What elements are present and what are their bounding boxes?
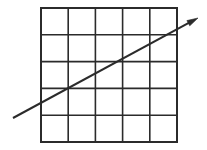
grid-cell-r3c5: [150, 62, 177, 89]
grid-group: [41, 8, 177, 142]
grid-arrow-figure: [0, 0, 207, 150]
grid-cell-r1c1: [41, 8, 68, 35]
figure-canvas: [0, 0, 207, 150]
grid-cell-r4c2: [68, 88, 95, 115]
grid-cell-r5c1: [41, 115, 68, 142]
grid-cell-r3c1: [41, 62, 68, 89]
grid-cell-r4c1: [41, 88, 68, 115]
grid-cell-r4c3: [95, 88, 122, 115]
grid-cell-r4c4: [123, 88, 150, 115]
grid-cell-r5c5: [150, 115, 177, 142]
grid-cell-r3c4: [123, 62, 150, 89]
grid-cell-r2c2: [68, 35, 95, 62]
grid-cell-r1c3: [95, 8, 122, 35]
grid-cell-r5c2: [68, 115, 95, 142]
grid-cell-r2c3: [95, 35, 122, 62]
grid-cell-r2c1: [41, 35, 68, 62]
grid-cell-r4c5: [150, 88, 177, 115]
grid-cell-r5c3: [95, 115, 122, 142]
grid-cell-r1c2: [68, 8, 95, 35]
grid-cell-r2c5: [150, 35, 177, 62]
grid-cell-r1c4: [123, 8, 150, 35]
grid-cell-r5c4: [123, 115, 150, 142]
